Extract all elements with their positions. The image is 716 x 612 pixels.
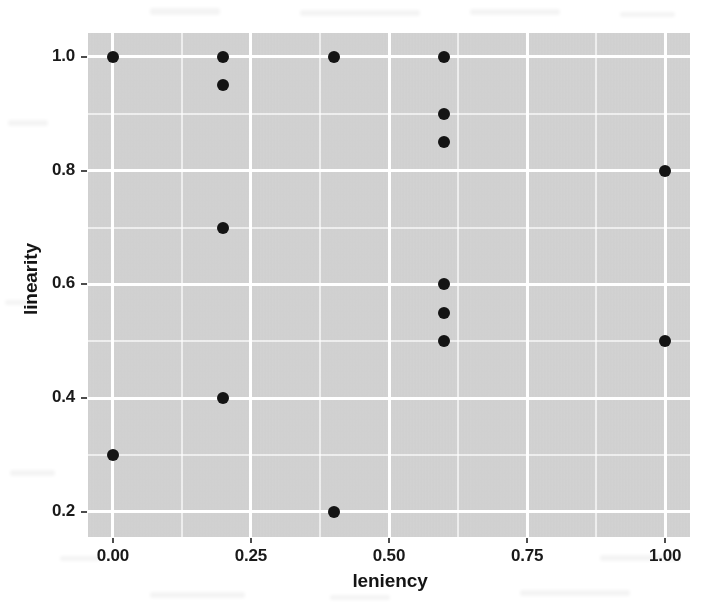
data-point	[217, 222, 229, 234]
data-point	[659, 335, 671, 347]
data-point	[217, 392, 229, 404]
data-point	[438, 108, 450, 120]
y-axis-tick	[81, 397, 87, 399]
y-axis-tick	[81, 170, 87, 172]
scan-artifact	[150, 8, 220, 15]
plot-panel	[88, 33, 690, 537]
scan-artifact	[8, 120, 48, 126]
gridline-major-horizontal	[88, 397, 690, 400]
y-axis-tick-label: 1.0	[13, 46, 75, 66]
scan-artifact	[330, 595, 390, 600]
x-axis-tick-label: 0.25	[211, 546, 291, 566]
data-point	[328, 506, 340, 518]
data-point	[438, 278, 450, 290]
x-axis-tick-label: 0.00	[73, 546, 153, 566]
gridline-major-horizontal	[88, 510, 690, 513]
data-point	[438, 335, 450, 347]
data-point	[107, 449, 119, 461]
scan-artifact	[620, 12, 675, 17]
data-point	[438, 51, 450, 63]
x-axis-tick-label: 1.00	[625, 546, 705, 566]
data-point	[217, 79, 229, 91]
data-point	[659, 165, 671, 177]
data-point	[107, 51, 119, 63]
x-axis-tick	[250, 538, 252, 543]
y-axis-title: linearity	[20, 149, 42, 409]
scan-artifact	[150, 592, 245, 598]
scan-artifact	[10, 470, 55, 476]
scan-artifact	[470, 9, 560, 15]
y-axis-tick	[81, 511, 87, 513]
scatter-plot-figure: 0.000.250.500.751.000.20.40.60.81.0 leni…	[0, 0, 716, 612]
data-point	[328, 51, 340, 63]
x-axis-tick	[526, 538, 528, 543]
x-axis-tick	[664, 538, 666, 543]
x-axis-tick-label: 0.75	[487, 546, 567, 566]
y-axis-tick	[81, 283, 87, 285]
data-point	[217, 51, 229, 63]
x-axis-title: leniency	[0, 570, 716, 592]
gridline-major-horizontal	[88, 55, 690, 58]
gridline-major-horizontal	[88, 169, 690, 172]
y-axis-tick-label: 0.2	[13, 501, 75, 521]
x-axis-tick-label: 0.50	[349, 546, 429, 566]
x-axis-tick	[112, 538, 114, 543]
gridline-major-horizontal	[88, 283, 690, 286]
data-point	[438, 307, 450, 319]
y-axis-tick	[81, 56, 87, 58]
data-point	[438, 136, 450, 148]
x-axis-tick	[388, 538, 390, 543]
scan-artifact	[300, 10, 420, 16]
